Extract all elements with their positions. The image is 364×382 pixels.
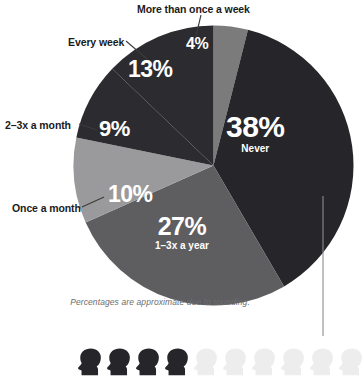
pictogram-head-row [76,336,364,380]
slice-label-every-week: 13% [128,58,173,81]
head-icon [279,344,306,380]
head-icon [337,344,364,380]
slice-sublabel-1-3x-a-year: 1–3x a year [155,241,209,251]
callout-label-more-than-once-a-week: More than once a week [137,3,250,15]
slice-label-never: 38% Never [226,112,285,154]
slice-value-once-a-month: 10% [108,183,153,206]
head-icon [105,344,132,380]
pie-chart-infographic: 38% Never 27% 1–3x a year 10% 9% 13% 4% … [0,0,364,382]
callout-label-2-3x-a-month: 2–3x a month [5,119,71,131]
head-icon [163,344,190,380]
head-icon [192,344,219,380]
chart-footnote: Percentages are approximate due to round… [0,297,320,307]
slice-label-once-a-month: 10% [108,183,153,206]
slice-value-every-week: 13% [128,58,173,81]
slice-label-1-3x-a-year: 27% 1–3x a year [155,214,209,251]
pie-chart [73,25,354,306]
pie-chart-svg [73,25,354,306]
head-icon [76,344,103,380]
slice-value-2-3x-a-month: 9% [99,118,130,140]
slice-label-more-than-once-a-week: 4% [186,36,208,52]
head-icon [134,344,161,380]
slice-label-2-3x-a-month: 9% [99,118,130,140]
head-icon [250,344,277,380]
slice-value-1-3x-a-year: 27% [155,214,209,240]
callout-label-once-a-month: Once a month [12,202,81,214]
callout-label-every-week: Every week [68,36,124,48]
slice-value-never: 38% [226,112,285,143]
slice-value-more-than-once-a-week: 4% [186,36,208,52]
head-icon [221,344,248,380]
slice-sublabel-never: Never [226,144,285,154]
head-icon [308,344,335,380]
